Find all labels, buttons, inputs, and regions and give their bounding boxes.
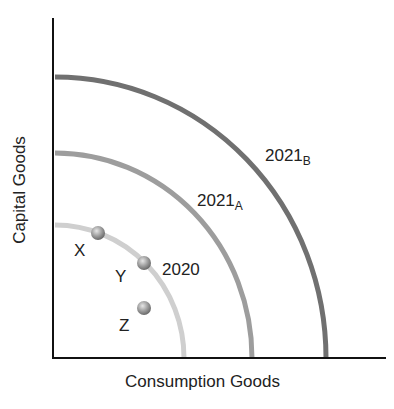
x-axis-label: Consumption Goods	[125, 372, 280, 392]
point-x-label: X	[74, 241, 85, 261]
curve-2020-label: 2020	[162, 260, 200, 280]
curve-2021b-label: 2021B	[265, 146, 311, 166]
point-z-label: Z	[119, 316, 129, 336]
curve-2021a-label: 2021A	[197, 191, 243, 211]
point-x-marker	[91, 226, 105, 240]
point-y-label: Y	[115, 267, 126, 287]
curve-2021b	[55, 77, 326, 358]
y-axis-label: Capital Goods	[10, 136, 30, 244]
point-z-marker	[137, 301, 151, 315]
point-y-marker	[137, 256, 151, 270]
